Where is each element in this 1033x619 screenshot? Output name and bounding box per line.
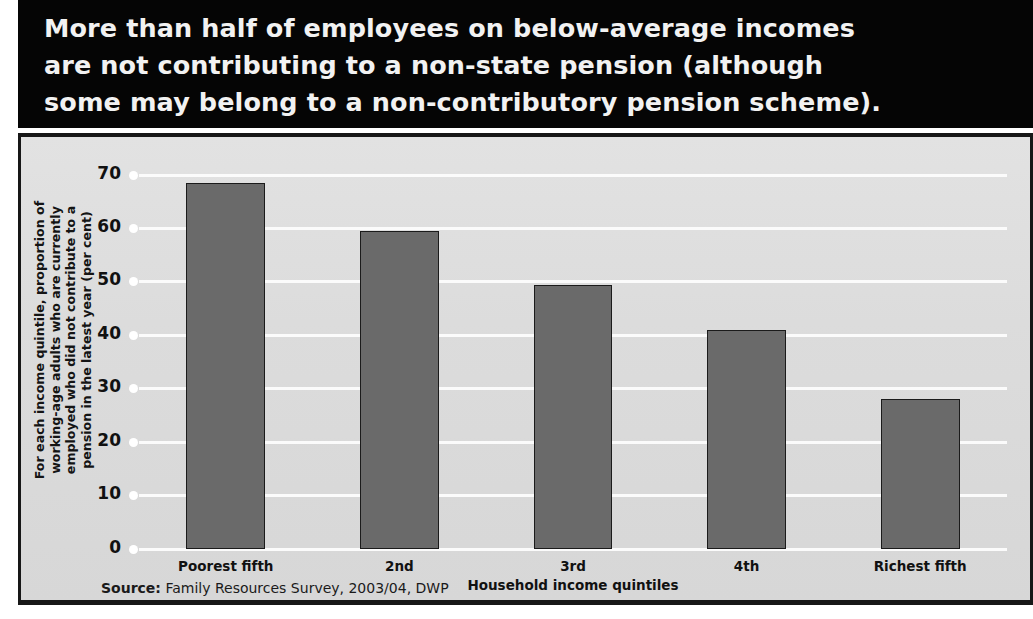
bar-series: Poorest fifth2nd3rd4thRichest fifth [139,175,1007,549]
y-tick-label: 10 [97,483,121,503]
headline-banner: More than half of employees on below-ave… [18,0,1033,128]
bar [360,231,439,549]
bar [707,330,786,549]
bar-group: Richest fifth [881,175,960,549]
axis-tick-dot [129,491,138,500]
axis-tick-dot [129,224,138,233]
bar-group: Poorest fifth [186,175,265,549]
axis-tick-dot [129,331,138,340]
bar [186,183,265,549]
x-tick-label: Richest fifth [851,558,990,574]
y-tick-label: 70 [97,163,121,183]
x-tick-label: 2nd [330,558,469,574]
y-tick-label: 40 [97,323,121,343]
x-tick-label: Poorest fifth [156,558,295,574]
x-tick-label: 4th [677,558,816,574]
y-tick-label: 30 [97,376,121,396]
bar [881,399,960,549]
axis-tick-dot [129,384,138,393]
y-axis-title: For each income quintile, proportion of … [32,145,94,535]
y-tick-label: 50 [97,269,121,289]
chart-plot-area: For each income quintile, proportion of … [21,137,1030,600]
bar-group: 3rd [534,175,613,549]
bar-group: 4th [707,175,786,549]
source-label: Source: [101,580,161,596]
axis-tick-dot [129,545,138,554]
x-tick-label: 3rd [504,558,643,574]
source-text: Family Resources Survey, 2003/04, DWP [161,580,449,596]
axis-tick-dot [129,438,138,447]
y-tick-label: 60 [97,216,121,236]
figure-root: More than half of employees on below-ave… [0,0,1033,619]
y-tick-label: 0 [109,537,121,557]
bar-group: 2nd [360,175,439,549]
axis-tick-dot [129,277,138,286]
chart-panel: For each income quintile, proportion of … [18,133,1033,605]
plot-region: 010203040506070 Poorest fifth2nd3rd4thRi… [139,175,1007,549]
y-tick-label: 20 [97,430,121,450]
headline-text: More than half of employees on below-ave… [44,10,1007,121]
bar [534,285,613,549]
axis-tick-dot [129,171,138,180]
source-note: Source: Family Resources Survey, 2003/04… [101,580,449,596]
